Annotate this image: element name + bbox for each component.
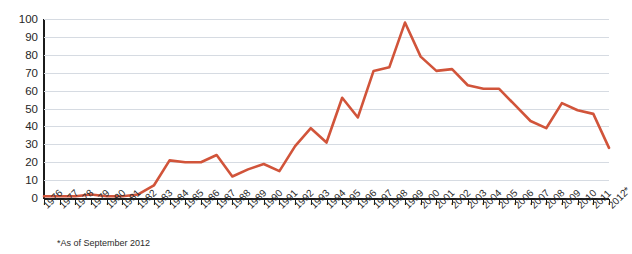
- y-tick-label-30: 30: [0, 138, 38, 150]
- plot-area: [44, 19, 609, 198]
- y-tick-label-80: 80: [0, 49, 38, 61]
- y-tick-label-70: 70: [0, 67, 38, 79]
- footnote: *As of September 2012: [57, 238, 150, 248]
- y-tick-label-0: 0: [0, 192, 38, 204]
- y-tick-label-20: 20: [0, 156, 38, 168]
- data-series-line: [44, 19, 609, 198]
- y-tick-label-60: 60: [0, 85, 38, 97]
- y-tick-label-50: 50: [0, 103, 38, 115]
- y-tick-label-40: 40: [0, 120, 38, 132]
- y-tick-label-100: 100: [0, 13, 38, 25]
- series-polyline: [44, 23, 609, 197]
- y-tick-label-10: 10: [0, 174, 38, 186]
- y-tick-label-90: 90: [0, 31, 38, 43]
